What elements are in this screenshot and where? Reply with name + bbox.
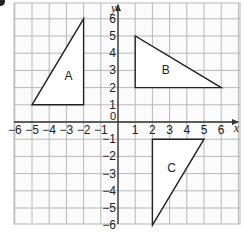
x-tick-label: 5 xyxy=(201,123,208,137)
y-tick-label: −2 xyxy=(102,149,116,163)
x-tick-label: 3 xyxy=(166,123,173,137)
x-tick-label: 4 xyxy=(183,123,190,137)
x-tick-label: 6 xyxy=(218,123,225,137)
triangle-label-c: C xyxy=(167,161,176,175)
y-tick-label: −3 xyxy=(102,167,116,181)
triangle-label-b: B xyxy=(162,63,170,77)
y-tick-label: 5 xyxy=(109,29,116,43)
y-tick-label: −6 xyxy=(102,218,116,232)
x-tick-label: −3 xyxy=(60,123,74,137)
x-axis-label: x xyxy=(233,121,240,135)
y-tick-label: 2 xyxy=(109,81,116,95)
y-tick-label: 6 xyxy=(109,12,116,26)
y-tick-label: −1 xyxy=(102,132,116,146)
y-tick-label: −4 xyxy=(102,184,116,198)
y-tick-label: 3 xyxy=(109,63,116,77)
y-tick-label: 4 xyxy=(109,46,116,60)
x-tick-label: −5 xyxy=(25,123,39,137)
y-tick-label: −5 xyxy=(102,201,116,215)
x-tick-label: −4 xyxy=(42,123,56,137)
coordinate-plane: xy0−6−5−4−3−2−1123456654321−1−2−3−4−5−6A… xyxy=(0,0,244,233)
x-tick-label: 1 xyxy=(132,123,139,137)
coordinate-grid-diagram: xy0−6−5−4−3−2−1123456654321−1−2−3−4−5−6A… xyxy=(0,0,244,233)
x-tick-label: −6 xyxy=(8,123,22,137)
triangle-label-a: A xyxy=(64,69,72,83)
x-tick-label: −2 xyxy=(77,123,91,137)
x-tick-label: 2 xyxy=(149,123,156,137)
y-tick-label: 1 xyxy=(109,98,116,112)
